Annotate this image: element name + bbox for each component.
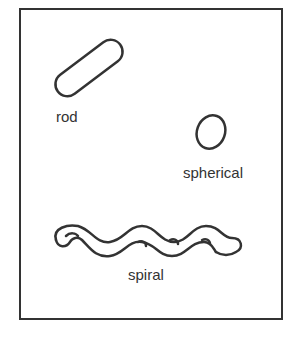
rod-shape-icon bbox=[51, 35, 128, 101]
spherical-shape-icon bbox=[192, 111, 230, 153]
shapes-canvas bbox=[0, 0, 295, 340]
rod-label: rod bbox=[56, 108, 78, 125]
spiral-shape-icon bbox=[55, 226, 241, 257]
spiral-label: spiral bbox=[128, 266, 164, 283]
spherical-label: spherical bbox=[183, 164, 243, 181]
